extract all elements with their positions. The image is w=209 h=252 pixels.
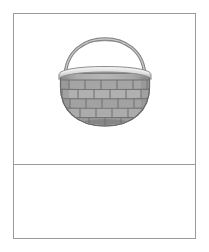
- basket-svg: [49, 33, 161, 145]
- caption-text: [14, 165, 195, 238]
- bottom-panel: [14, 165, 195, 238]
- basket-body: [57, 73, 155, 137]
- wicker-basket-illustration: [49, 33, 161, 145]
- top-panel: [14, 14, 195, 164]
- page-canvas: [0, 0, 209, 252]
- content-frame: [13, 13, 196, 239]
- basket-weave: [57, 77, 155, 137]
